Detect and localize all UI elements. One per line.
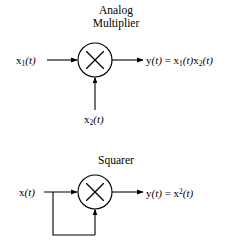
squarer-output-term-argument: (t) [183, 187, 193, 199]
figure-root: Analog Multiplier x1(t) x2(t) y(t) = x1(… [0, 0, 232, 243]
multiplier-title-line1: Analog [0, 4, 232, 17]
squarer-output-equals: = [162, 187, 174, 199]
squarer-output-argument: (t) [152, 187, 162, 199]
squarer-block-group [44, 175, 143, 235]
multiplier-input2-label: x2(t) [84, 113, 104, 129]
squarer-title: Squarer [0, 154, 232, 167]
squarer-title-line1: Squarer [0, 154, 232, 167]
multiplier-output-equals: = [162, 54, 174, 66]
multiplier-input2-argument: (t) [93, 113, 103, 125]
multiplier-title: Analog Multiplier [0, 4, 232, 30]
multiplier-output-argument: (t) [152, 54, 162, 66]
multiplier-output-term2-argument: (t) [203, 54, 213, 66]
multiplier-output-label: y(t) = x1(t)x2(t) [146, 54, 213, 70]
multiplier-title-line2: Multiplier [0, 17, 232, 30]
multiplier-input1-argument: (t) [25, 54, 35, 66]
multiplier-input1-label: x1(t) [16, 54, 36, 70]
squarer-output-label: y(t) = x2(t) [146, 186, 193, 199]
block-diagram-canvas [0, 0, 232, 243]
squarer-input-argument: (t) [25, 186, 35, 198]
multiply-symbol-icon [87, 52, 104, 69]
multiply-symbol-icon [87, 184, 104, 201]
multiplier-output-term1-argument: (t) [183, 54, 193, 66]
squarer-input-label: x(t) [19, 186, 35, 198]
multiplier-block-group [47, 43, 143, 110]
